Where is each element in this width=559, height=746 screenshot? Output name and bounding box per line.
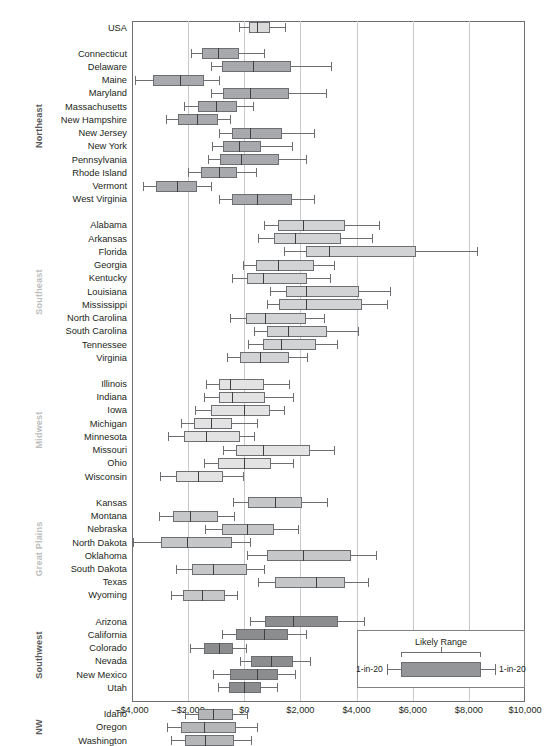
box [230, 669, 278, 680]
median-line [241, 154, 242, 165]
whisker-cap-low [168, 432, 169, 441]
median-line [263, 445, 264, 456]
whisker-high [234, 740, 251, 741]
legend-cap-low [387, 664, 388, 675]
whisker-cap-high [243, 472, 244, 481]
whisker-high [261, 146, 292, 147]
median-line [180, 75, 181, 86]
median-line [257, 194, 258, 205]
median-line [206, 431, 207, 442]
box [236, 629, 288, 640]
whisker-cap-low [223, 446, 224, 455]
whisker-cap-low [227, 353, 228, 362]
median-line [219, 643, 220, 654]
median-line [239, 141, 240, 152]
whisker-cap-low [135, 76, 136, 85]
whisker-cap-high [314, 195, 315, 204]
whisker-low [185, 714, 198, 715]
median-line [260, 352, 261, 363]
whisker-cap-low [247, 551, 248, 560]
whisker-cap-high [264, 565, 265, 574]
whisker-high [270, 410, 284, 411]
whisker-low [166, 119, 179, 120]
whisker-high [247, 569, 264, 570]
whisker-low [206, 384, 219, 385]
whisker-cap-high [327, 498, 328, 507]
boxplot-row [0, 75, 559, 86]
whisker-cap-low [222, 630, 223, 639]
box [181, 722, 236, 733]
whisker-low [208, 159, 221, 160]
median-line [265, 313, 266, 324]
median-line [295, 233, 296, 244]
whisker-high [289, 93, 325, 94]
whisker-cap-high [326, 89, 327, 98]
legend-label-high: 1-in-20 [499, 664, 526, 674]
whisker-cap-high [257, 419, 258, 428]
whisker-high [218, 516, 235, 517]
whisker-low [213, 674, 230, 675]
median-line [306, 299, 307, 310]
whisker-cap-high [237, 591, 238, 600]
whisker-high [270, 27, 285, 28]
box [211, 405, 270, 416]
whisker-cap-low [211, 62, 212, 71]
whisker-cap-high [334, 446, 335, 455]
whisker-low [250, 621, 265, 622]
median-line [230, 379, 231, 390]
boxplot-row [0, 458, 559, 469]
box [274, 233, 341, 244]
median-line [232, 392, 233, 403]
whisker-cap-high [358, 327, 359, 336]
whisker-cap-low [240, 657, 241, 666]
whisker-high [225, 595, 238, 596]
whisker-cap-high [372, 234, 373, 243]
boxplot-row [0, 22, 559, 33]
whisker-low [205, 529, 222, 530]
whisker-cap-high [285, 23, 286, 32]
whisker-high [197, 186, 211, 187]
whisker-cap-high [284, 406, 285, 415]
whisker-cap-low [204, 459, 205, 468]
boxplot-row [0, 101, 559, 112]
median-line [177, 181, 178, 192]
boxplot-row [0, 61, 559, 72]
whisker-cap-low [184, 102, 185, 111]
legend-sample-box [401, 662, 481, 677]
boxplot-row [0, 326, 559, 337]
whisker-low [264, 225, 278, 226]
whisker-cap-high [298, 525, 299, 534]
boxplot-row [0, 286, 559, 297]
whisker-high [306, 318, 324, 319]
median-line [281, 339, 282, 350]
whisker-cap-low [133, 538, 134, 547]
boxplot-row [0, 577, 559, 588]
whisker-low [211, 66, 222, 67]
whisker-cap-high [257, 723, 258, 732]
box [267, 326, 327, 337]
median-line [278, 260, 279, 271]
box [176, 471, 224, 482]
whisker-low [135, 80, 153, 81]
whisker-high [345, 225, 379, 226]
boxplot-row [0, 141, 559, 152]
whisker-cap-high [364, 617, 365, 626]
median-line [250, 88, 251, 99]
whisker-cap-low [219, 195, 220, 204]
region-label-nw: NW [34, 720, 44, 735]
whisker-low [168, 436, 183, 437]
boxplot-row [0, 114, 559, 125]
whisker-low [219, 133, 232, 134]
whisker-low [247, 555, 267, 556]
whisker-cap-low [230, 314, 231, 323]
whisker-high [240, 436, 254, 437]
whisker-cap-low [176, 565, 177, 574]
median-line [263, 273, 264, 284]
box [178, 114, 217, 125]
whisker-low [143, 186, 156, 187]
boxplot-row [0, 299, 559, 310]
legend-cap-high [495, 664, 496, 675]
median-line [244, 458, 245, 469]
whisker-low [204, 463, 218, 464]
legend-label-low: 1-in-20 [356, 664, 383, 674]
